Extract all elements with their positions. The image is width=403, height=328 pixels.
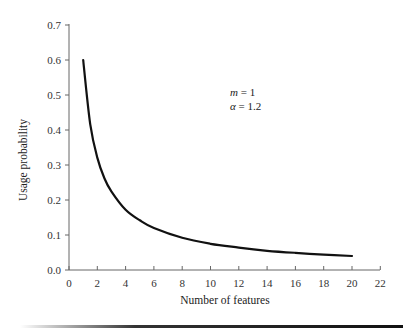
x-tick-label: 22 — [375, 277, 386, 289]
y-tick-label: 0.4 — [47, 124, 61, 136]
usage-probability-curve — [83, 60, 352, 256]
x-tick-label: 2 — [95, 277, 101, 289]
y-tick-label: 0.7 — [47, 19, 61, 31]
annotation-alpha: α = 1.2 — [230, 100, 261, 112]
annotation-m: m = 1 — [230, 86, 255, 98]
x-axis-label: Number of features — [180, 294, 270, 306]
y-ticks: 0.00.10.20.30.40.50.60.7 — [47, 19, 69, 276]
x-tick-label: 20 — [347, 277, 359, 289]
y-axis-label: Usage probability — [17, 119, 30, 201]
y-tick-label: 0.3 — [47, 159, 61, 171]
y-tick-label: 0.5 — [47, 89, 61, 101]
x-ticks: 0246810121416182022 — [66, 266, 386, 289]
y-tick-label: 0.0 — [47, 264, 61, 276]
x-tick-label: 12 — [233, 277, 244, 289]
x-tick-label: 18 — [318, 277, 330, 289]
x-tick-label: 14 — [262, 277, 274, 289]
x-tick-label: 16 — [290, 277, 302, 289]
x-tick-label: 0 — [66, 277, 72, 289]
x-tick-label: 4 — [123, 277, 129, 289]
y-tick-label: 0.1 — [47, 229, 61, 241]
x-tick-label: 8 — [179, 277, 185, 289]
x-tick-label: 6 — [151, 277, 157, 289]
y-tick-label: 0.6 — [47, 54, 61, 66]
usage-probability-chart: 0.00.10.20.30.40.50.60.7 024681012141618… — [0, 0, 403, 328]
y-tick-label: 0.2 — [47, 194, 61, 206]
x-tick-label: 10 — [205, 277, 217, 289]
